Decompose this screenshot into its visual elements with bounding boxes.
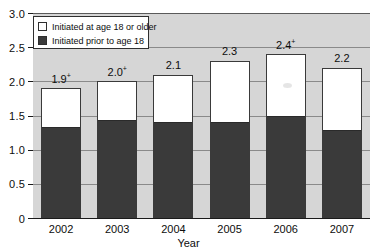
bar-segment-lower[interactable] bbox=[98, 121, 136, 217]
chart-legend: Initiated at age 18 or older Initiated p… bbox=[33, 16, 149, 49]
gridline bbox=[33, 116, 370, 117]
y-axis-tick: 3.0 bbox=[9, 7, 33, 20]
bar-segment-lower[interactable] bbox=[154, 123, 192, 217]
y-axis-tick: 0.5 bbox=[9, 178, 33, 191]
y-axis-tick-label: 1.0 bbox=[9, 144, 28, 156]
bar-stack[interactable] bbox=[153, 75, 193, 219]
x-axis-tick-label: 2004 bbox=[143, 223, 203, 235]
bar-segment-upper[interactable] bbox=[98, 82, 136, 123]
bar-group[interactable] bbox=[322, 13, 362, 218]
bar-segment-lower[interactable] bbox=[323, 131, 361, 217]
y-axis-tick-label: 3.0 bbox=[9, 8, 28, 20]
x-axis-title: Year bbox=[0, 237, 377, 249]
x-axis-tick-label: 2006 bbox=[256, 223, 316, 235]
legend-label-upper: Initiated at age 18 or older bbox=[52, 22, 157, 32]
y-axis-tick-label: 0 bbox=[19, 213, 28, 225]
y-axis-tick-mark bbox=[28, 116, 33, 117]
plot-top-border bbox=[33, 13, 370, 14]
bar-value-label: 2.3 bbox=[200, 45, 260, 57]
gridline bbox=[33, 150, 370, 151]
bar-segment-lower[interactable] bbox=[211, 123, 249, 217]
bar-segment-lower[interactable] bbox=[267, 117, 305, 217]
bar-segment-divider bbox=[154, 122, 192, 123]
y-axis-tick: 1.5 bbox=[9, 110, 33, 123]
bar-value-label: 1.9+ bbox=[31, 72, 91, 85]
bar-segment-divider bbox=[211, 122, 249, 123]
bar-value-label: 2.4+ bbox=[256, 38, 316, 51]
y-axis-tick-label: 2.0 bbox=[9, 76, 28, 88]
bar-segment-divider bbox=[267, 116, 305, 117]
scan-artifact bbox=[283, 83, 292, 88]
bar-group[interactable] bbox=[153, 13, 193, 218]
bar-segment-divider bbox=[42, 127, 80, 128]
bar-stack[interactable] bbox=[266, 54, 306, 218]
bar-stack[interactable] bbox=[322, 68, 362, 218]
bar-stack[interactable] bbox=[97, 81, 137, 218]
y-axis-tick-mark bbox=[28, 218, 33, 219]
y-axis-tick-label: 0.5 bbox=[9, 178, 28, 190]
legend-swatch-light-icon bbox=[38, 22, 47, 31]
x-axis-tick-label: 2003 bbox=[87, 223, 147, 235]
bar-segment-upper[interactable] bbox=[154, 76, 192, 125]
y-axis-tick: 2.5 bbox=[9, 41, 33, 54]
y-axis-tick-mark bbox=[28, 184, 33, 185]
bar-value-label: 2.0+ bbox=[87, 65, 147, 78]
bar-segment-divider bbox=[323, 130, 361, 131]
y-axis-tick-label: 1.5 bbox=[9, 110, 28, 122]
bar-stack[interactable] bbox=[41, 88, 81, 218]
bar-segment-divider bbox=[98, 120, 136, 121]
bar-value-marker: + bbox=[291, 38, 295, 45]
legend-label-lower: Initiated prior to age 18 bbox=[52, 36, 144, 46]
x-axis-tick-label: 2005 bbox=[200, 223, 260, 235]
x-axis-tick-label: 2002 bbox=[31, 223, 91, 235]
y-axis-tick: 2.0 bbox=[9, 75, 33, 88]
bar-segment-upper[interactable] bbox=[323, 69, 361, 133]
x-axis-tick-label: 2007 bbox=[312, 223, 372, 235]
chart-container: 00.51.01.52.02.53.0 1.9+2.0+2.12.32.4+2.… bbox=[0, 0, 377, 252]
x-axis-line bbox=[33, 218, 370, 219]
bar-value-marker: + bbox=[67, 72, 71, 79]
bar-stack[interactable] bbox=[210, 61, 250, 218]
legend-item-upper: Initiated at age 18 or older bbox=[38, 20, 144, 33]
y-axis-tick-mark bbox=[28, 13, 33, 14]
legend-item-lower: Initiated prior to age 18 bbox=[38, 34, 144, 47]
y-axis-tick-label: 2.5 bbox=[9, 42, 28, 54]
bar-value-label: 2.1 bbox=[143, 59, 203, 71]
bar-value-marker: + bbox=[123, 65, 127, 72]
bar-segment-upper[interactable] bbox=[211, 62, 249, 125]
y-axis-tick-mark bbox=[28, 150, 33, 151]
bar-value-label: 2.2 bbox=[312, 52, 372, 64]
y-axis: 00.51.01.52.02.53.0 bbox=[0, 0, 33, 252]
legend-swatch-dark-icon bbox=[38, 36, 47, 45]
bar-segment-lower[interactable] bbox=[42, 128, 80, 217]
bar-group[interactable] bbox=[210, 13, 250, 218]
bar-segment-upper[interactable] bbox=[42, 89, 80, 130]
y-axis-tick: 1.0 bbox=[9, 144, 33, 157]
gridline bbox=[33, 184, 370, 185]
